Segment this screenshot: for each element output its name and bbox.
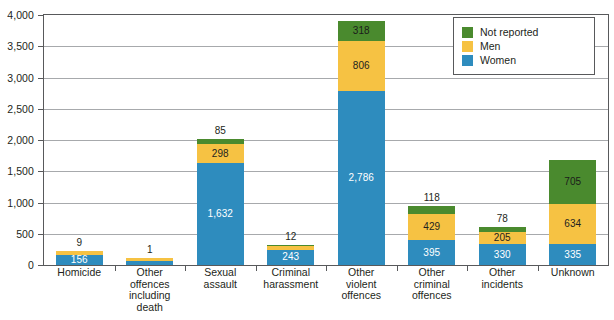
y-axis-tick-mark — [38, 140, 43, 141]
legend: Not reported Men Women — [453, 17, 595, 75]
bar-segment-value-label: 335 — [564, 250, 581, 260]
bar-segment-women[interactable]: 395 — [408, 240, 455, 265]
bar-segment-value-label: 705 — [564, 177, 581, 187]
bar-stack[interactable]: 15163 — [126, 258, 173, 265]
y-axis-tick-mark — [38, 171, 43, 172]
bar-top-value-label: 118 — [424, 193, 440, 203]
bar-segment-value-label: 2,786 — [348, 173, 374, 183]
bar-segment-value-label: 634 — [564, 219, 581, 229]
bar-top-value-label: 12 — [285, 232, 296, 242]
bar-group[interactable]: 9611569 — [44, 15, 114, 265]
bar-stack[interactable]: 78205330 — [479, 227, 526, 265]
bar-segment-men[interactable]: 634 — [549, 204, 596, 244]
legend-label-women: Women — [480, 54, 516, 66]
bar-group[interactable]: 126124312 — [256, 15, 326, 265]
legend-label-men: Men — [480, 40, 500, 52]
bar-segment-women[interactable]: 1,632 — [197, 163, 244, 265]
bar-segment-value-label: 1,632 — [207, 209, 233, 219]
bar-segment-women[interactable]: 330 — [479, 244, 526, 265]
bar-stack[interactable]: 961156 — [56, 251, 103, 265]
x-axis-category-label: Homicide — [44, 267, 114, 320]
x-axis-category-label: Other criminal offences — [397, 267, 467, 320]
bar-segment-women[interactable]: 335 — [549, 244, 596, 265]
bar-top-value-label: 9 — [76, 238, 82, 248]
bar-top-value-label: 85 — [215, 126, 226, 136]
bar-stack[interactable]: 705634335 — [549, 160, 596, 265]
bar-segment-value-label: 156 — [71, 255, 88, 265]
bar-stack[interactable]: 3188062,786 — [338, 21, 385, 265]
bar-segment-men[interactable]: 429 — [408, 214, 455, 241]
bar-group[interactable]: 151631 — [115, 15, 185, 265]
x-axis-category-label: Other violent offences — [326, 267, 396, 320]
y-axis-tick-label: 2,000 — [7, 135, 34, 146]
y-axis-tick-mark — [38, 265, 43, 266]
y-axis-tick-label: 500 — [16, 229, 34, 240]
y-axis-tick-mark — [38, 46, 43, 47]
bar-segment-not-reported[interactable]: 118 — [408, 206, 455, 213]
y-axis-tick-label: 3,500 — [7, 41, 34, 52]
bar-segment-value-label: 318 — [353, 26, 370, 36]
bar-stack[interactable]: 852981,632 — [197, 139, 244, 265]
bar-segment-not-reported[interactable]: 318 — [338, 21, 385, 41]
y-axis-tick-mark — [38, 15, 43, 16]
legend-swatch-icon-men — [462, 41, 473, 52]
y-axis-tick-label: 0 — [28, 260, 34, 271]
x-axis-category-label: Other incidents — [467, 267, 537, 320]
bar-segment-men[interactable]: 298 — [197, 144, 244, 163]
y-axis-tick-label: 3,000 — [7, 72, 34, 83]
bar-segment-women[interactable]: 63 — [126, 261, 173, 265]
y-axis-tick-mark — [38, 203, 43, 204]
y-axis-tick-mark — [38, 109, 43, 110]
legend-label-not-reported: Not reported — [480, 26, 538, 38]
y-axis-tick-label: 1,500 — [7, 166, 34, 177]
bar-segment-value-label: 330 — [494, 250, 511, 260]
bar-group[interactable]: 852981,63285 — [185, 15, 255, 265]
bar-top-value-label: 1 — [147, 245, 153, 255]
y-axis-tick-label: 2,500 — [7, 104, 34, 115]
legend-swatch-icon-women — [462, 55, 473, 66]
bar-stack[interactable]: 1261243 — [267, 245, 314, 265]
legend-item-men: Men — [462, 40, 586, 52]
bar-segment-value-label: 243 — [282, 252, 299, 262]
x-axis-category-label: Other offences including death — [115, 267, 185, 320]
x-axis-category-label: Unknown — [538, 267, 608, 320]
bar-segment-value-label: 806 — [353, 61, 370, 71]
y-axis-tick-mark — [38, 234, 43, 235]
stacked-bar-chart: 4,0003,5003,0002,5002,0001,5001,0005000 … — [0, 0, 614, 320]
bar-segment-not-reported[interactable]: 705 — [549, 160, 596, 204]
x-axis-category-label: Criminal harassment — [256, 267, 326, 320]
y-axis-tick-label: 4,000 — [7, 10, 34, 21]
bar-segment-women[interactable]: 2,786 — [338, 91, 385, 265]
bar-segment-value-label: 395 — [423, 248, 440, 258]
bar-segment-men[interactable]: 806 — [338, 41, 385, 91]
legend-item-women: Women — [462, 54, 586, 66]
legend-swatch-icon-not-reported — [462, 27, 473, 38]
y-axis-tick-mark — [38, 78, 43, 79]
bar-segment-women[interactable]: 243 — [267, 250, 314, 265]
bar-segment-value-label: 429 — [423, 222, 440, 232]
bar-group[interactable]: 3188062,786318 — [326, 15, 396, 265]
y-axis-tick-label: 1,000 — [7, 197, 34, 208]
bar-segment-value-label: 298 — [212, 149, 229, 159]
bar-stack[interactable]: 118429395 — [408, 206, 455, 265]
bar-segment-value-label: 205 — [494, 233, 511, 243]
bar-segment-men[interactable]: 205 — [479, 232, 526, 245]
y-axis: 4,0003,5003,0002,5002,0001,5001,0005000 — [0, 0, 43, 280]
bar-segment-women[interactable]: 156 — [56, 255, 103, 265]
legend-item-not-reported: Not reported — [462, 26, 586, 38]
bar-top-value-label: 78 — [497, 214, 508, 224]
x-axis-category-label: Sexual assault — [185, 267, 255, 320]
x-axis-labels: HomicideOther offences including deathSe… — [44, 267, 608, 320]
